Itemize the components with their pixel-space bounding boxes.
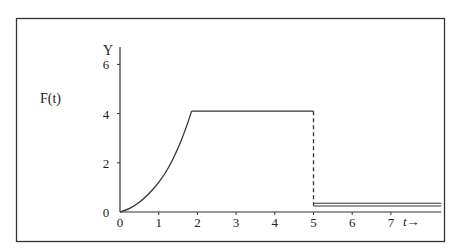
x-tick-label: 6 (349, 215, 356, 230)
axes (117, 47, 441, 215)
x-tick-label: 7 (388, 215, 395, 230)
chart-frame (17, 19, 445, 242)
y-axis-label: Y (103, 43, 113, 58)
axis-labels: Y F(t) 024601234567t→ (40, 43, 420, 230)
x-tick-label: 3 (233, 215, 240, 230)
x-axis-label: t→ (403, 214, 420, 229)
series-line (120, 111, 192, 212)
y-tick-label: 0 (103, 205, 110, 220)
y-tick-label: 6 (103, 57, 110, 72)
x-tick-label: 2 (194, 215, 201, 230)
x-tick-label: 4 (272, 215, 279, 230)
x-tick-label: 0 (117, 215, 124, 230)
y-tick-label: 2 (103, 156, 110, 171)
plot-series (120, 111, 441, 212)
y-tick-label: 4 (103, 107, 110, 122)
x-tick-label: 5 (310, 215, 317, 230)
function-label: F(t) (40, 91, 61, 107)
chart-figure: Y F(t) 024601234567t→ (0, 0, 451, 249)
x-tick-label: 1 (155, 215, 162, 230)
